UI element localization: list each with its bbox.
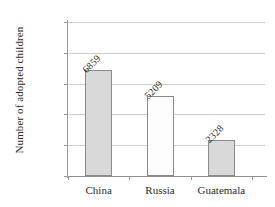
- x-axis-line: [67, 176, 267, 177]
- bar-china: [85, 70, 112, 176]
- y-axis-tick: [64, 84, 68, 85]
- x-axis-category-label: Guatemala: [181, 184, 261, 196]
- y-axis-tick: [64, 145, 68, 146]
- plot-area: 02,0004,0006,0008,00010,000 685952092328…: [68, 22, 252, 176]
- bar-guatemala: [208, 140, 235, 176]
- y-axis-title: Number of adopted children: [13, 5, 25, 175]
- x-axis-tick: [252, 176, 253, 180]
- y-axis-tick: [64, 22, 68, 23]
- y-axis-tick: [64, 53, 68, 54]
- gridline: [68, 53, 265, 54]
- bar-russia: [147, 96, 174, 176]
- x-axis-tick: [68, 176, 69, 180]
- y-axis-tick: [64, 114, 68, 115]
- bar-chart: Number of adopted children 02,0004,0006,…: [0, 0, 275, 207]
- x-axis-tick: [129, 176, 130, 180]
- x-axis-tick: [191, 176, 192, 180]
- gridline: [68, 22, 265, 23]
